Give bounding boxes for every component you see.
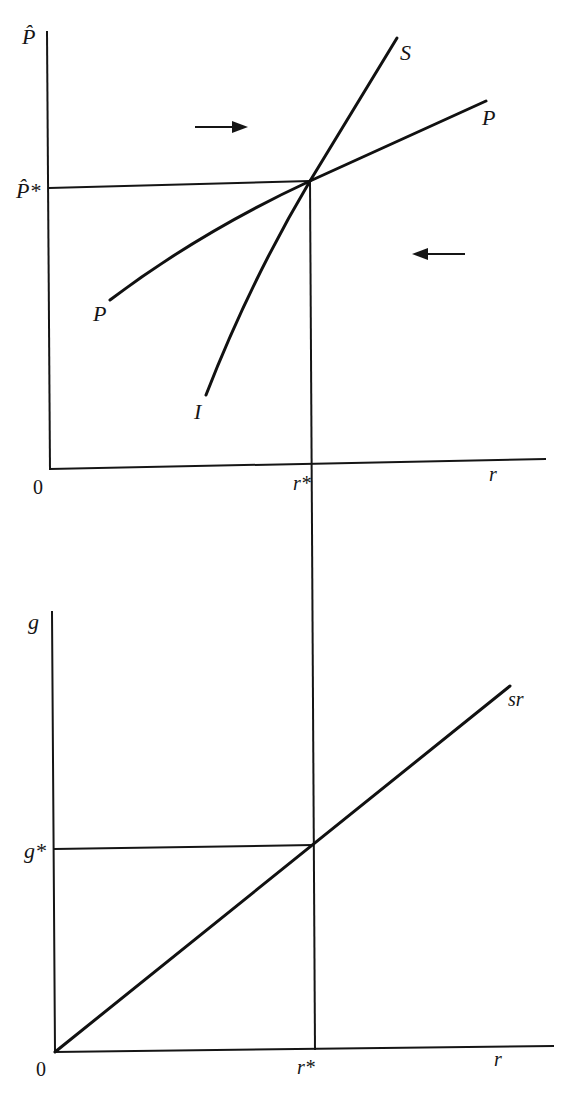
- r-star-vertical-guide: [310, 181, 315, 1050]
- bottom-x-axis-label: r: [494, 1048, 502, 1070]
- right-arrow-icon: [195, 121, 248, 133]
- top-r-star-label: r*: [293, 472, 311, 494]
- bottom-g-star-label: g*: [24, 838, 46, 863]
- top-p-star-label: P̂*: [15, 178, 40, 203]
- i-curve: [206, 181, 310, 395]
- top-y-axis-label: P̂: [21, 24, 35, 49]
- top-y-axis: [47, 32, 50, 469]
- s-curve: [310, 38, 397, 181]
- p-curve-upper-label: P: [481, 105, 495, 130]
- bottom-x-axis: [55, 1046, 553, 1052]
- sr-line: [55, 686, 510, 1052]
- bottom-y-axis-label: g: [28, 609, 39, 634]
- top-x-axis: [50, 459, 545, 469]
- bottom-r-star-label: r*: [297, 1056, 315, 1078]
- top-panel: P̂ P̂* 0 r* r S P P I: [15, 24, 545, 1050]
- bottom-origin-label: 0: [36, 1058, 46, 1080]
- sr-line-label: sr: [508, 688, 524, 710]
- top-origin-label: 0: [33, 476, 43, 498]
- i-curve-label: I: [193, 399, 203, 424]
- two-panel-economic-diagram: P̂ P̂* 0 r* r S P P I g g* 0 r* r sr: [0, 0, 572, 1093]
- bottom-panel: g g* 0 r* r sr: [24, 609, 553, 1080]
- top-x-axis-label: r: [489, 463, 497, 485]
- left-arrow-icon: [412, 248, 465, 260]
- bottom-g-star-guide: [54, 845, 313, 849]
- bottom-y-axis: [52, 612, 55, 1052]
- p-curve-lower-label: P: [92, 301, 106, 326]
- s-curve-label: S: [400, 40, 411, 65]
- top-p-star-guide: [49, 181, 310, 188]
